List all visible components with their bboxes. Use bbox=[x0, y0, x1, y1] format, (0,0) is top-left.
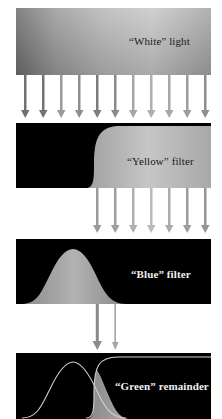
arrows-white-to-yellow bbox=[21, 75, 210, 118]
arrows-blue-to-green bbox=[93, 304, 119, 350]
arrows-yellow-to-blue bbox=[93, 188, 210, 233]
white-light-label: “White” light bbox=[129, 35, 190, 47]
green-remainder-label: “Green” remainder bbox=[115, 380, 209, 392]
blue-filter-label: “Blue” filter bbox=[131, 268, 191, 280]
subtractive-filter-diagram: “White” light “Yellow” filter “Blue” fil… bbox=[0, 0, 222, 419]
yellow-filter-label: “Yellow” filter bbox=[127, 155, 194, 167]
